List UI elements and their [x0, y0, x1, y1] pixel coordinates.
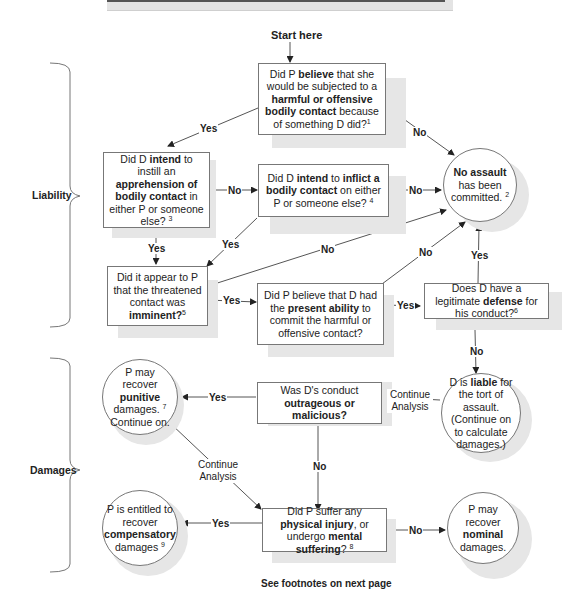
- edge-label-yes-q8: Yes: [211, 518, 230, 529]
- node-no-assault: No assault has been committed. 2: [443, 148, 517, 222]
- edge-label-continue-analysis-punitive: Continue Analysis: [195, 459, 241, 483]
- node-compensatory-damages: P is entitled to recover compensatory da…: [102, 490, 178, 566]
- node-believe-harmful-contact: Did P believe that she would be subjecte…: [258, 63, 386, 135]
- edge-label-yes-q2: Yes: [147, 243, 166, 254]
- edge-label-no-q1: No: [412, 127, 427, 138]
- edge-label-no-q8: No: [408, 525, 423, 536]
- edge-label-no-q4: No: [320, 244, 335, 255]
- node-legitimate-defense: Does D have a legitimate defense for his…: [424, 283, 549, 319]
- edge-label-yes-q5: Yes: [396, 300, 415, 311]
- node-intend-inflict-contact: Did D intend to inflict a bodily contact…: [258, 164, 389, 217]
- node-nominal-damages: P may recover nominal damages.: [447, 492, 519, 564]
- node-intend-apprehension: Did D intend to instill an apprehension …: [103, 152, 210, 228]
- edge-label-yes-q7: Yes: [208, 392, 227, 403]
- edge-label-yes-q1: Yes: [199, 123, 218, 134]
- edge-label-no-q3: No: [408, 185, 423, 196]
- edge-label-no-q6: No: [469, 346, 484, 357]
- node-d-liable: D is liable for the tort of assault. (Co…: [441, 373, 521, 453]
- section-liability: Liability: [32, 189, 72, 201]
- node-outrageous-malicious: Was D's conduct outrageous or malicious?: [257, 382, 382, 424]
- node-imminent: Did it appear to P that the threatened c…: [107, 266, 208, 326]
- edge-label-yes-q4: Yes: [222, 295, 241, 306]
- edge-label-yes-q3: Yes: [221, 239, 240, 250]
- start-label: Start here: [271, 29, 322, 41]
- edge-label-continue-analysis-liable: Continue Analysis: [387, 389, 433, 413]
- section-damages: Damages: [30, 464, 77, 476]
- footer-note: See footnotes on next page: [261, 578, 392, 589]
- edge-label-no-q2: No: [227, 185, 242, 196]
- edge-label-no-q7: No: [312, 461, 327, 472]
- edge-label-yes-q6: Yes: [470, 250, 489, 261]
- node-physical-mental-suffering: Did P suffer any physical injury, or und…: [262, 508, 387, 552]
- node-present-ability: Did P believe that D had the present abi…: [257, 283, 384, 345]
- edge-label-no-q5: No: [418, 247, 433, 258]
- node-punitive-damages: P may recover punitive damages. 7 Contin…: [102, 359, 178, 435]
